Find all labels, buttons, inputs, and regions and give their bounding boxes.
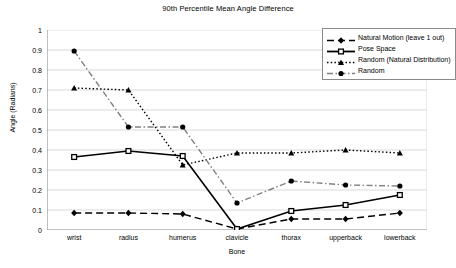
- chart-legend: Natural Motion (leave 1 out)Pose SpaceRa…: [322, 28, 456, 80]
- data-point-marker: [180, 211, 186, 217]
- legend-item[interactable]: Natural Motion (leave 1 out): [326, 32, 451, 43]
- data-point-marker: [71, 210, 77, 216]
- legend-item[interactable]: Random (Natural Distribution): [326, 54, 451, 65]
- data-point-marker: [288, 216, 294, 222]
- legend-item[interactable]: Random: [326, 65, 451, 76]
- x-axis-tick-labels: wristradiushumerusclaviclethoraxupperbac…: [47, 234, 427, 246]
- y-tick-label: 0.3: [32, 167, 42, 174]
- legend-symbol-icon: [326, 65, 356, 76]
- legend-symbol-icon: [326, 54, 356, 65]
- y-tick-label: 0.6: [32, 107, 42, 114]
- y-tick-label: 0.7: [32, 87, 42, 94]
- x-tick-label: radius: [119, 234, 138, 241]
- data-point-marker: [338, 71, 343, 76]
- y-tick-label: 1: [38, 27, 42, 34]
- y-tick-label: 0.8: [32, 67, 42, 74]
- x-tick-label: humerus: [169, 234, 196, 241]
- chart-container: 90th Percentile Mean Angle Difference An…: [0, 0, 456, 268]
- chart-title: 90th Percentile Mean Angle Difference: [0, 4, 456, 13]
- data-point-marker: [343, 147, 349, 153]
- data-point-marker: [343, 203, 348, 208]
- data-point-marker: [180, 154, 185, 159]
- y-tick-label: 0: [38, 227, 42, 234]
- legend-label: Natural Motion (leave 1 out): [356, 34, 444, 41]
- data-point-marker: [397, 193, 402, 198]
- series-line: [71, 85, 403, 167]
- x-tick-label: lowerback: [384, 234, 416, 241]
- legend-symbol-icon: [326, 32, 356, 43]
- legend-label: Random: [356, 67, 384, 74]
- y-tick-label: 0.1: [32, 207, 42, 214]
- data-point-marker: [126, 124, 131, 129]
- data-point-marker: [126, 149, 131, 154]
- x-axis-title: Bone: [47, 248, 427, 255]
- data-point-marker: [125, 210, 131, 216]
- y-axis-tick-labels: 00.10.20.30.40.50.60.70.80.91: [0, 30, 42, 230]
- x-tick-label: thorax: [282, 234, 301, 241]
- x-tick-label: clavicle: [226, 234, 249, 241]
- legend-label: Pose Space: [356, 45, 396, 52]
- data-point-marker: [71, 85, 77, 91]
- data-point-marker: [235, 227, 240, 230]
- data-point-marker: [397, 183, 402, 188]
- data-point-marker: [343, 182, 348, 187]
- x-tick-label: wrist: [67, 234, 81, 241]
- data-point-marker: [289, 209, 294, 214]
- legend-label: Random (Natural Distribution): [356, 56, 451, 63]
- data-point-marker: [288, 150, 294, 156]
- data-point-marker: [289, 178, 294, 183]
- legend-symbol-icon: [326, 43, 356, 54]
- y-tick-label: 0.2: [32, 187, 42, 194]
- y-tick-label: 0.9: [32, 47, 42, 54]
- data-point-marker: [72, 48, 77, 53]
- y-tick-label: 0.4: [32, 147, 42, 154]
- data-point-marker: [234, 200, 239, 205]
- x-tick-label: upperback: [329, 234, 362, 241]
- y-tick-label: 0.5: [32, 127, 42, 134]
- data-point-marker: [397, 210, 403, 216]
- legend-item[interactable]: Pose Space: [326, 43, 451, 54]
- data-point-marker: [180, 124, 185, 129]
- data-point-marker: [72, 155, 77, 160]
- data-point-marker: [343, 216, 349, 222]
